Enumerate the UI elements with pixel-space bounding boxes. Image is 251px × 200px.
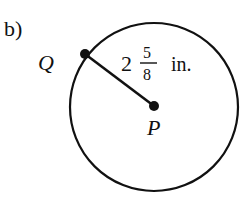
radius-unit: in.: [171, 53, 192, 75]
part-label: b): [4, 16, 22, 41]
point-q-dot: [80, 49, 90, 59]
radius-whole: 2: [121, 51, 132, 76]
radius-measure-label: 2 5 8 in.: [121, 44, 192, 83]
point-p-label: P: [146, 115, 160, 140]
radius-numerator: 5: [143, 44, 151, 61]
point-p-dot: [149, 101, 159, 111]
radius-denominator: 8: [143, 66, 151, 83]
point-q-label: Q: [38, 50, 54, 75]
circle-diagram: b) Q P 2 5 8 in.: [0, 0, 251, 200]
